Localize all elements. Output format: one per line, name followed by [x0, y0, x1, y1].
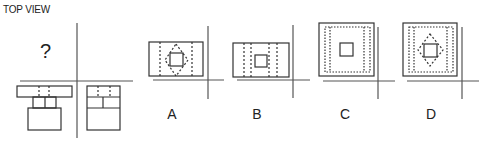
option-d-figure[interactable]	[403, 23, 479, 99]
option-b-figure[interactable]	[233, 25, 310, 98]
option-b-label[interactable]: B	[247, 106, 267, 122]
option-c-label[interactable]: C	[335, 106, 355, 122]
option-d-label[interactable]: D	[421, 106, 441, 122]
main-quadrant-axes	[20, 23, 133, 138]
option-a-label[interactable]: A	[162, 106, 182, 122]
orthographic-diagram	[0, 0, 483, 147]
option-a-figure[interactable]	[149, 26, 224, 99]
front-view	[17, 86, 72, 130]
option-c-figure[interactable]	[319, 23, 395, 99]
side-view	[87, 86, 120, 130]
